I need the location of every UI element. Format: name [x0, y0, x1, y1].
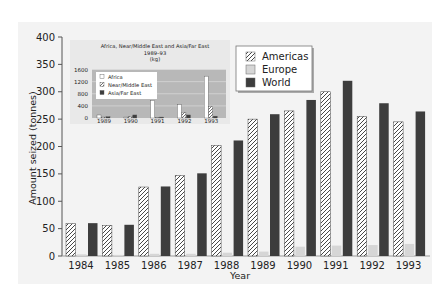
bar-americas: [284, 111, 294, 256]
inset-legend-label: Near/Middle East: [108, 82, 152, 88]
legend-label: Europe: [262, 64, 297, 75]
inset-legend-swatch: [100, 83, 104, 87]
y-tick-label: 200: [36, 141, 55, 152]
inset-bar: [204, 76, 208, 118]
bar-world: [124, 225, 133, 256]
y-tick-label: 150: [36, 168, 55, 179]
x-tick-label: 1984: [68, 260, 93, 271]
y-tick-label: 250: [36, 114, 55, 125]
bar-world: [306, 100, 316, 256]
y-tick-label: 350: [36, 59, 55, 70]
bar-europe: [186, 254, 196, 256]
inset-y-tick-label: 0: [85, 115, 89, 121]
inset-bar: [177, 105, 181, 118]
inset-legend-swatch: [100, 75, 104, 79]
inset-y-tick-label: 1600: [74, 67, 88, 73]
inset-title: 1989–93: [144, 50, 166, 56]
bar-europe: [259, 252, 269, 256]
bar-group-1992: 1992: [357, 103, 389, 271]
inset-x-tick-label: 1989: [97, 118, 111, 124]
bar-americas: [394, 122, 404, 256]
y-tick-label: 100: [36, 196, 55, 207]
bar-group-1985: 1985: [102, 225, 133, 271]
x-axis-title: Year: [229, 270, 250, 281]
bar-group-1991: 1991: [321, 81, 353, 271]
bar-europe: [150, 254, 160, 256]
bar-americas: [139, 187, 149, 256]
inset-legend-swatch: [100, 91, 104, 95]
y-axis-title: Amount seized (tonnes): [27, 91, 38, 204]
legend-label: World: [262, 77, 291, 88]
inset-x-tick-label: 1991: [151, 118, 165, 124]
bar-world: [270, 114, 280, 256]
bar-group-1986: 1986: [139, 186, 171, 271]
inset-bar: [209, 106, 213, 118]
bar-world: [161, 186, 171, 256]
x-tick-label: 1991: [323, 260, 348, 271]
inset-y-tick-label: 800: [78, 91, 89, 97]
inset-y-tick-label: 400: [78, 103, 89, 109]
bar-group-1984: 1984: [66, 223, 98, 271]
bar-world: [234, 140, 244, 256]
x-tick-label: 1985: [105, 260, 130, 271]
bar-world: [88, 223, 98, 256]
bar-americas: [248, 119, 258, 256]
inset-x-tick-label: 1992: [177, 118, 191, 124]
bar-group-1993: 1993: [394, 111, 426, 271]
inset-title: Africa, Near/Middle East and Asia/Far Ea…: [101, 43, 210, 49]
bar-americas: [212, 145, 222, 256]
x-tick-label: 1992: [359, 260, 384, 271]
bar-world: [416, 111, 426, 256]
legend-swatch-europe: [246, 65, 255, 74]
main-legend: AmericasEuropeWorld: [236, 46, 314, 93]
bar-europe: [332, 246, 342, 256]
x-tick-label: 1986: [141, 260, 166, 271]
inset-chart: Africa, Near/Middle East and Asia/Far Ea…: [70, 40, 230, 124]
bar-europe: [368, 245, 378, 256]
inset-bar: [151, 100, 155, 118]
bar-europe: [77, 254, 87, 256]
x-tick-label: 1987: [177, 260, 202, 271]
x-tick-label: 1990: [287, 260, 312, 271]
bar-world: [343, 81, 353, 256]
bar-americas: [321, 92, 331, 256]
x-tick-label: 1989: [250, 260, 275, 271]
bar-americas: [357, 116, 367, 256]
bar-group-1990: 1990: [284, 100, 316, 271]
inset-legend-label: Asia/Far East: [108, 90, 141, 96]
bar-world: [379, 103, 389, 256]
y-tick-label: 400: [36, 32, 55, 43]
x-tick-label: 1993: [396, 260, 421, 271]
bar-group-1989: 1989: [248, 114, 280, 271]
bar-americas: [175, 176, 185, 256]
y-tick-label: 50: [42, 223, 55, 234]
y-tick-label: 0: [49, 251, 55, 262]
legend-swatch-americas: [246, 52, 255, 61]
inset-x-tick-label: 1990: [124, 118, 138, 124]
bar-world: [197, 173, 207, 256]
bar-group-1988: 1988: [212, 140, 244, 271]
bar-americas: [66, 224, 76, 256]
bar-europe: [223, 253, 233, 256]
legend-swatch-world: [246, 78, 255, 87]
y-tick-label: 300: [36, 86, 55, 97]
bar-europe: [295, 247, 305, 256]
seizures-bar-chart: 050100150200250300350400 198419851986198…: [0, 0, 445, 298]
inset-title: (kg): [150, 56, 160, 63]
bar-americas: [102, 225, 112, 256]
inset-y-tick-label: 1200: [74, 79, 88, 85]
inset-x-tick-label: 1993: [204, 118, 218, 124]
inset-legend-label: Africa: [108, 74, 123, 80]
legend-label: Americas: [262, 51, 308, 62]
bar-europe: [113, 255, 123, 256]
bar-europe: [405, 244, 415, 256]
